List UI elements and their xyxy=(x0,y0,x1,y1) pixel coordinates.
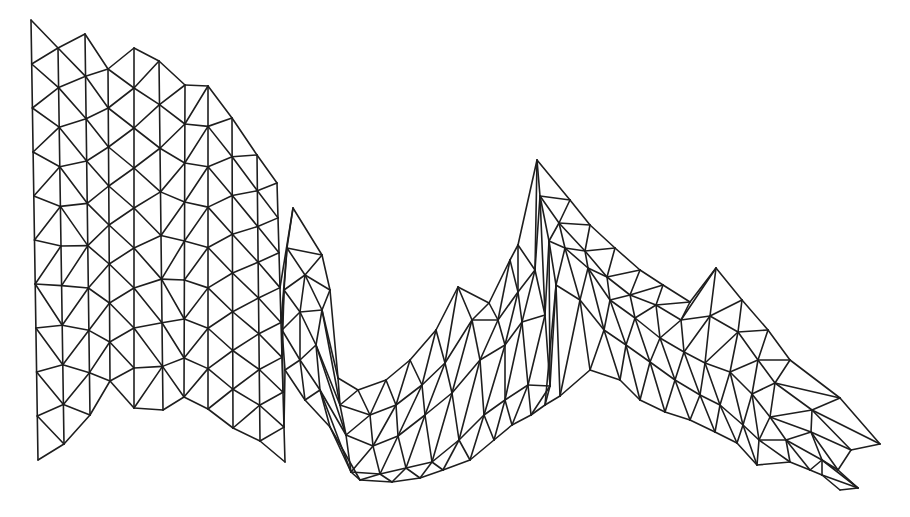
mesh-edge xyxy=(656,285,663,305)
mesh-edge xyxy=(472,303,489,320)
mesh-edge xyxy=(159,61,160,105)
mesh-edge xyxy=(410,360,422,385)
mesh-edge xyxy=(208,351,233,369)
mesh-edge xyxy=(233,351,260,370)
mesh-edge xyxy=(822,475,840,490)
mesh-edge xyxy=(208,86,232,118)
mesh-edge xyxy=(63,404,90,415)
mesh-edge xyxy=(134,48,159,61)
mesh-edge xyxy=(34,196,61,206)
mesh-edge xyxy=(282,330,283,392)
mesh-edge xyxy=(720,405,737,443)
mesh-edge xyxy=(63,330,89,364)
mesh-edge xyxy=(322,255,330,290)
mesh-edge xyxy=(59,88,87,119)
mesh-edge xyxy=(300,275,305,312)
mesh-edge xyxy=(436,330,445,363)
mesh-edge xyxy=(556,248,565,285)
mesh-edge xyxy=(489,260,510,303)
mesh-edge xyxy=(134,328,163,366)
mesh-edge xyxy=(87,161,88,203)
mesh-edge xyxy=(208,126,232,156)
mesh-edge xyxy=(396,405,398,436)
mesh-edge xyxy=(305,255,322,275)
mesh-edge xyxy=(338,378,358,390)
mesh-edge xyxy=(232,234,258,262)
mesh-edge xyxy=(656,302,690,305)
mesh-edge xyxy=(86,69,108,76)
mesh-edge xyxy=(300,310,322,312)
mesh-edge xyxy=(770,383,775,417)
mesh-edge xyxy=(459,440,470,460)
mesh-edge xyxy=(284,427,285,462)
mesh-edge xyxy=(62,288,88,325)
mesh-edge xyxy=(62,286,89,288)
mesh-edge xyxy=(322,290,330,310)
mesh-edge xyxy=(743,394,752,425)
mesh-edge xyxy=(360,480,392,482)
mesh-edge xyxy=(812,398,840,410)
mesh-edge xyxy=(758,360,775,383)
mesh-edge xyxy=(208,248,233,274)
mesh-edge xyxy=(134,105,160,128)
mesh-edge xyxy=(233,334,259,351)
mesh-edge xyxy=(134,408,163,410)
mesh-edge xyxy=(458,287,472,320)
mesh-edge xyxy=(59,127,86,161)
mesh-edge xyxy=(31,20,32,64)
mesh-edge xyxy=(86,119,108,147)
mesh-edge xyxy=(510,260,518,292)
mesh-edge xyxy=(208,196,232,208)
mesh-edge xyxy=(259,288,281,298)
mesh-edge xyxy=(184,358,208,369)
mesh-edge xyxy=(36,325,62,328)
mesh-edge xyxy=(185,241,209,248)
mesh-edge xyxy=(738,330,768,332)
mesh-edge xyxy=(163,366,185,397)
mesh-edge xyxy=(62,286,63,326)
mesh-edge xyxy=(63,365,90,373)
mesh-edge xyxy=(232,155,257,157)
mesh-edge xyxy=(840,398,880,444)
mesh-edge xyxy=(88,288,89,330)
mesh-edge xyxy=(134,61,159,88)
mesh-edge xyxy=(233,298,259,312)
mesh-edge xyxy=(134,128,160,148)
mesh-edge xyxy=(585,251,607,277)
mesh-edge xyxy=(700,363,705,395)
mesh-edge xyxy=(472,320,480,360)
mesh-edge xyxy=(730,360,758,372)
mesh-edge xyxy=(109,168,134,186)
mesh-edge xyxy=(757,462,790,465)
mesh-edge xyxy=(675,380,690,420)
mesh-edge xyxy=(108,69,134,88)
mesh-edge xyxy=(640,270,663,285)
mesh-edge xyxy=(36,328,37,372)
mesh-edge xyxy=(161,192,162,236)
mesh-edge xyxy=(233,389,260,405)
mesh-edge xyxy=(300,312,316,345)
mesh-edge xyxy=(162,323,184,358)
mesh-edge xyxy=(851,444,880,450)
mesh-edge xyxy=(134,279,162,288)
mesh-edge xyxy=(770,410,812,417)
mesh-edge xyxy=(615,248,640,270)
mesh-edge xyxy=(498,320,505,345)
mesh-edge xyxy=(257,155,277,183)
mesh-edge xyxy=(422,385,425,415)
mesh-edge xyxy=(258,253,279,263)
mesh-edge xyxy=(62,325,89,330)
mesh-edge xyxy=(540,196,570,200)
mesh-edge xyxy=(35,246,61,284)
mesh-edge xyxy=(58,48,59,88)
mesh-edge xyxy=(705,363,730,372)
mesh-edge xyxy=(108,108,134,128)
mesh-edge xyxy=(738,300,742,332)
mesh-edge xyxy=(822,460,838,470)
mesh-edge xyxy=(110,342,134,368)
mesh-edge xyxy=(163,358,185,366)
mesh-edge xyxy=(360,474,380,480)
mesh-edge xyxy=(432,393,452,462)
mesh-edge xyxy=(184,369,208,397)
mesh-edge xyxy=(656,305,660,338)
